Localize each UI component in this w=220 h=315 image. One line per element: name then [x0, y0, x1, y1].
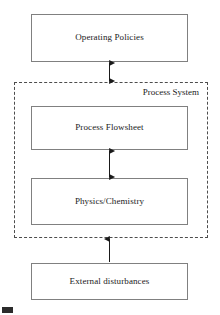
box-process-flowsheet: Process Flowsheet [31, 106, 188, 150]
scan-artifact [2, 307, 13, 313]
box-operating-policies-label: Operating Policies [75, 33, 144, 43]
box-external-disturbances: External disturbances [31, 263, 188, 300]
box-process-flowsheet-label: Process Flowsheet [75, 123, 143, 133]
box-external-disturbances-label: External disturbances [70, 277, 150, 287]
box-physics-chemistry-label: Physics/Chemistry [75, 197, 144, 207]
box-operating-policies: Operating Policies [31, 14, 188, 62]
diagram-canvas: Operating Policies Process System Proces… [0, 0, 220, 315]
box-physics-chemistry: Physics/Chemistry [31, 178, 188, 225]
process-system-label: Process System [143, 87, 199, 97]
